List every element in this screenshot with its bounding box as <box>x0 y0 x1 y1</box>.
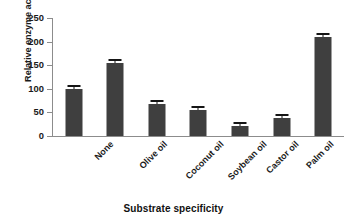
y-tick-label: 50 <box>10 107 44 116</box>
x-tick-label: Olive oil <box>138 139 170 171</box>
y-tick-label: 150 <box>10 60 44 69</box>
error-bar-stem <box>281 116 282 118</box>
bar-slot <box>219 18 261 136</box>
bar-chart: Relative enzyme activity (%) 05010015020… <box>0 0 347 223</box>
bar-slot <box>53 18 95 136</box>
x-tick-label: Soybean oil <box>225 139 268 182</box>
x-axis-tick-labels: NoneOlive oilCoconut oilSoybean oilCasto… <box>53 137 344 195</box>
bar-slot <box>302 18 344 136</box>
x-tick-label: Palm oil <box>304 139 335 170</box>
bar <box>148 104 165 136</box>
error-bar-stem <box>115 61 116 63</box>
error-bar-cap <box>67 85 80 87</box>
bar <box>65 89 82 136</box>
error-bar-stem <box>156 102 157 104</box>
y-tick-mark <box>47 65 52 66</box>
bar <box>232 126 249 136</box>
x-tick-label: None <box>92 139 115 162</box>
error-bar-cap <box>317 33 330 35</box>
y-tick-label: 250 <box>10 13 44 22</box>
y-tick-mark <box>47 89 52 90</box>
bar-slot <box>178 18 220 136</box>
error-bar-stem <box>240 124 241 126</box>
error-bar-stem <box>198 108 199 110</box>
x-axis-title: Substrate specificity <box>0 203 347 214</box>
bar-series <box>53 18 344 136</box>
error-bar-stem <box>73 87 74 89</box>
error-bar-stem <box>323 35 324 37</box>
bar <box>315 37 332 136</box>
x-tick-label: Castor oil <box>264 139 300 175</box>
y-tick-mark <box>47 136 52 137</box>
error-bar-cap <box>109 59 122 61</box>
y-tick-label: 200 <box>10 37 44 46</box>
x-tick-label: Coconut oil <box>183 139 225 181</box>
y-tick-label: 0 <box>10 131 44 140</box>
error-bar-cap <box>192 106 205 108</box>
y-tick-mark <box>47 42 52 43</box>
bar-slot <box>136 18 178 136</box>
y-tick-mark <box>47 112 52 113</box>
bar <box>107 63 124 136</box>
bar <box>273 118 290 136</box>
y-tick-mark <box>47 18 52 19</box>
y-tick-label: 100 <box>10 84 44 93</box>
error-bar-cap <box>275 114 288 116</box>
error-bar-cap <box>150 100 163 102</box>
error-bar-cap <box>234 122 247 124</box>
bar <box>190 110 207 136</box>
bar-slot <box>95 18 137 136</box>
bar-slot <box>261 18 303 136</box>
